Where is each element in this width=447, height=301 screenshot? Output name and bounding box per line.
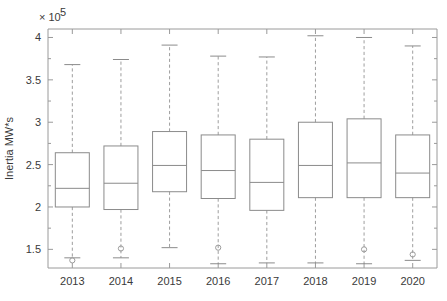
x-tick-label: 2020 (400, 275, 424, 287)
y-tick-label: 2.5 (26, 159, 41, 171)
box-plot-group (55, 65, 89, 263)
box-iqr (347, 119, 381, 198)
y-tick-label: 4 (35, 31, 41, 43)
y-axis: 1.522.533.54 (26, 31, 437, 255)
box-iqr (153, 132, 187, 192)
box-iqr (55, 153, 89, 207)
box-plot-group (250, 57, 284, 263)
box-iqr (298, 122, 332, 197)
axes-frame (48, 29, 437, 268)
exponent-power: 5 (60, 6, 66, 18)
box-plot-group (201, 56, 235, 264)
x-axis: 20132014201520162017201820192020 (60, 29, 425, 287)
plot-border (48, 29, 437, 268)
x-tick-label: 2017 (255, 275, 279, 287)
x-tick-label: 2013 (60, 275, 84, 287)
box-iqr (201, 135, 235, 199)
box-plot-group (153, 45, 187, 248)
y-tick-label: 1.5 (26, 243, 41, 255)
x-tick-label: 2015 (157, 275, 181, 287)
exponent-base: × 10 (39, 11, 61, 23)
box-iqr (396, 135, 430, 198)
box-plot-figure: 1.522.533.54× 105Inertia MW*s20132014201… (0, 0, 447, 301)
y-axis-exponent: × 105 (39, 6, 66, 23)
y-tick-label: 3 (35, 116, 41, 128)
box-plot-group (347, 37, 381, 263)
chart-canvas: 1.522.533.54× 105Inertia MW*s20132014201… (0, 0, 447, 301)
x-tick-label: 2018 (303, 275, 327, 287)
box-plot-group (298, 36, 332, 263)
y-axis-title: Inertia MW*s (3, 117, 15, 180)
outlier-point (70, 258, 75, 263)
box-iqr (250, 139, 284, 210)
y-tick-label: 2 (35, 201, 41, 213)
y-tick-label: 3.5 (26, 74, 41, 86)
x-tick-label: 2014 (109, 275, 133, 287)
box-plot-group (104, 60, 138, 258)
x-tick-label: 2016 (206, 275, 230, 287)
box-plot-group (396, 46, 430, 260)
x-tick-label: 2019 (352, 275, 376, 287)
box-iqr (104, 146, 138, 210)
y-axis-title-text: Inertia MW*s (3, 117, 15, 180)
